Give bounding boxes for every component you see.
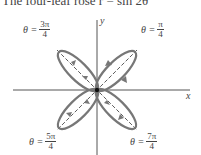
origin-point	[95, 88, 99, 92]
y-axis-label: y	[100, 15, 104, 26]
fraction-denominator: 4	[48, 142, 53, 151]
fraction-denominator: 4	[42, 30, 47, 39]
arrow-icon	[82, 76, 88, 80]
x-axis-label: x	[186, 90, 190, 101]
fraction-denominator: 4	[149, 142, 154, 151]
angle-label-5pi4: θ = 5π4	[29, 132, 56, 151]
angle-prefix: θ =	[141, 24, 155, 35]
arrow-icon	[118, 114, 124, 120]
fraction-denominator: 4	[158, 30, 163, 39]
angle-label-3pi4: θ = 3π4	[23, 20, 50, 39]
angle-label-7pi4: θ = 7π4	[130, 132, 157, 151]
angle-prefix: θ =	[130, 136, 144, 147]
angle-prefix: θ =	[23, 24, 37, 35]
angle-label-pi4: θ = π4	[141, 20, 164, 39]
arrow-icon	[84, 99, 90, 104]
angle-prefix: θ =	[29, 136, 43, 147]
